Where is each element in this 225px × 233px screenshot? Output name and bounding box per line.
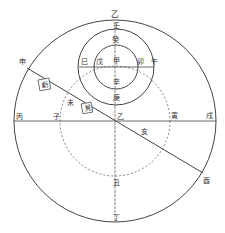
label-jia: 甲 — [113, 57, 120, 65]
label-xu: 戌 — [206, 111, 213, 120]
label-hai: 亥 — [141, 127, 148, 136]
label-mao: 卯 — [137, 57, 144, 66]
label-gui: 癸 — [112, 35, 119, 44]
label-wu-right: 午 — [151, 57, 158, 66]
label-ren: 壬 — [113, 21, 120, 30]
label-yin: 寅 — [171, 111, 178, 120]
label-you: 酉 — [203, 177, 210, 185]
label-bing: 丙 — [16, 113, 23, 121]
label-center: 乙 — [117, 113, 124, 121]
label-wu-inner: 戊 — [96, 57, 103, 66]
label-ding: 丁 — [113, 214, 120, 222]
label-jian: 見 — [84, 104, 92, 113]
label-xin: 辛 — [113, 77, 120, 86]
label-zi: 子 — [53, 113, 60, 121]
label-outer-top: 乙 — [111, 10, 119, 19]
label-chou: 丑 — [113, 179, 120, 187]
label-geng: 庚 — [113, 93, 120, 102]
geometry-diagram: 乙 壬 癸 甲 辛 庚 巳 戊 卯 午 申 丙 子 乙 寅 戌 未 亥 酉 丑 … — [0, 0, 225, 233]
label-shen: 申 — [19, 57, 26, 66]
label-si: 巳 — [81, 58, 88, 66]
label-wei: 未 — [67, 98, 74, 107]
